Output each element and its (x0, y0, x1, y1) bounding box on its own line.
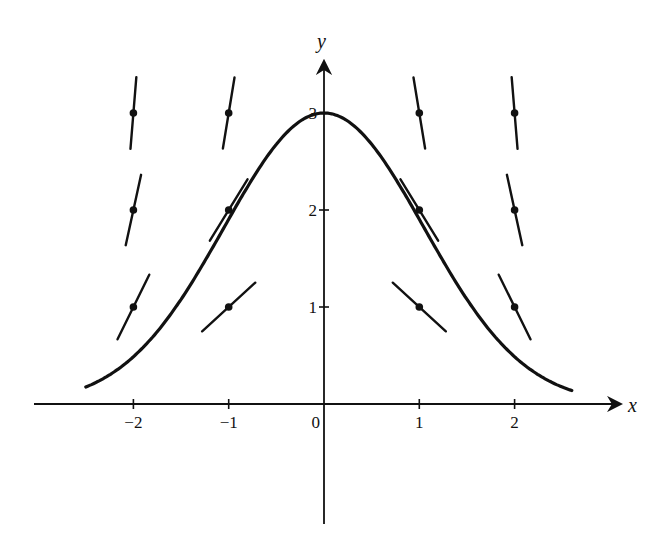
y-ticks: 123 (309, 104, 330, 317)
slope-point (130, 206, 138, 214)
slope-point (511, 109, 519, 117)
slope-field-diagram: x y −2−1012 123 (0, 0, 668, 541)
slope-point (130, 109, 138, 117)
solution-curve (86, 113, 572, 391)
x-tick-label: 0 (312, 413, 321, 432)
slope-point (225, 303, 233, 311)
slope-point (416, 109, 424, 117)
x-axis-label: x (627, 394, 637, 416)
slope-point (416, 303, 424, 311)
x-tick-label: −1 (220, 413, 238, 432)
slope-point (511, 303, 519, 311)
y-tick-label: 2 (309, 201, 318, 220)
slope-point (225, 109, 233, 117)
slope-point (511, 206, 519, 214)
x-tick-label: 2 (510, 413, 519, 432)
slope-point (130, 303, 138, 311)
y-axis-label: y (315, 30, 326, 53)
y-tick-label: 1 (309, 298, 318, 317)
x-tick-label: 1 (415, 413, 424, 432)
x-tick-label: −2 (124, 413, 142, 432)
